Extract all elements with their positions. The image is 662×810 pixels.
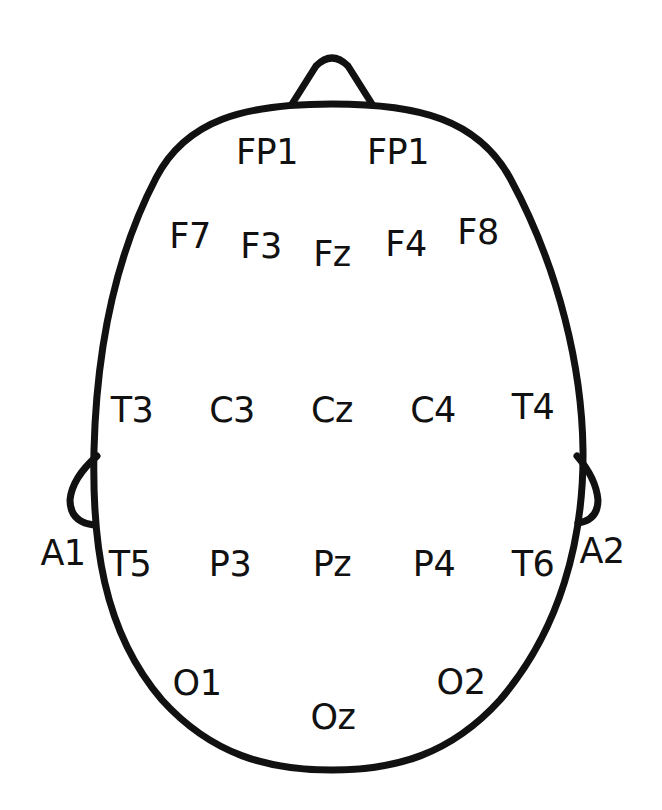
electrode-label-t6: T6 [512, 547, 555, 582]
electrode-label-f8: F8 [457, 215, 498, 250]
head-shape [94, 104, 583, 770]
electrode-label-fp1-left: FP1 [236, 135, 298, 170]
electrode-label-t5: T5 [109, 547, 152, 582]
electrode-label-f7: F7 [169, 219, 210, 254]
electrode-label-p3: P3 [209, 547, 251, 582]
electrode-label-t4: T4 [512, 390, 555, 425]
electrode-label-o2: O2 [437, 665, 486, 700]
electrode-label-c3: C3 [209, 393, 255, 428]
electrode-label-o1: O1 [173, 666, 222, 701]
electrode-label-fp1-right: FP1 [367, 135, 429, 170]
electrode-label-p4: P4 [413, 547, 455, 582]
electrode-label-c4: C4 [410, 393, 456, 428]
electrode-label-f4: F4 [385, 227, 426, 262]
nose-shape [292, 58, 372, 104]
electrode-label-a2: A2 [579, 534, 624, 569]
electrode-label-a1: A1 [40, 536, 85, 571]
electrode-label-fz: Fz [313, 237, 351, 272]
electrode-label-f3: F3 [240, 229, 281, 264]
eeg-head-diagram: FP1FP1F7F3FzF4F8T3C3CzC4T4A1T5P3PzP4T6A2… [0, 0, 662, 810]
electrode-label-oz: Oz [311, 700, 356, 735]
electrode-label-t3: T3 [111, 393, 154, 428]
electrode-label-pz: Pz [313, 547, 351, 582]
electrode-label-cz: Cz [311, 393, 353, 428]
